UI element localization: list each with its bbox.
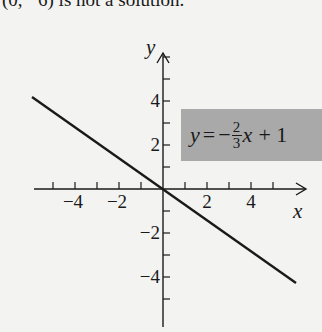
equation-constant: + 1 — [258, 122, 287, 148]
x-tick-label: 4 — [246, 191, 256, 212]
y-tick-label: −2 — [140, 222, 160, 243]
x-tick-label: 2 — [202, 191, 212, 212]
equation-label: y = − 2 3 x + 1 — [190, 112, 287, 158]
equation-lhs: y — [190, 122, 200, 148]
x-tick-label: −4 — [63, 191, 84, 212]
equation-equals: = — [203, 122, 215, 148]
y-tick-label: 4 — [151, 90, 161, 111]
equation-sign: − — [218, 122, 230, 148]
y-tick-label: −4 — [140, 266, 161, 287]
x-axis-label: x — [292, 199, 303, 223]
equation-fraction: 2 3 — [232, 120, 242, 151]
y-ticks — [163, 57, 170, 299]
y-tick-label: 2 — [151, 134, 161, 155]
y-axis-label: y — [144, 35, 156, 59]
equation-variable: x — [243, 122, 253, 148]
coordinate-plane: −4 −2 2 4 4 2 −2 −4 x y — [0, 0, 322, 332]
fraction-denominator: 3 — [233, 136, 241, 151]
x-tick-label: −2 — [107, 191, 127, 212]
fraction-numerator: 2 — [233, 120, 241, 135]
